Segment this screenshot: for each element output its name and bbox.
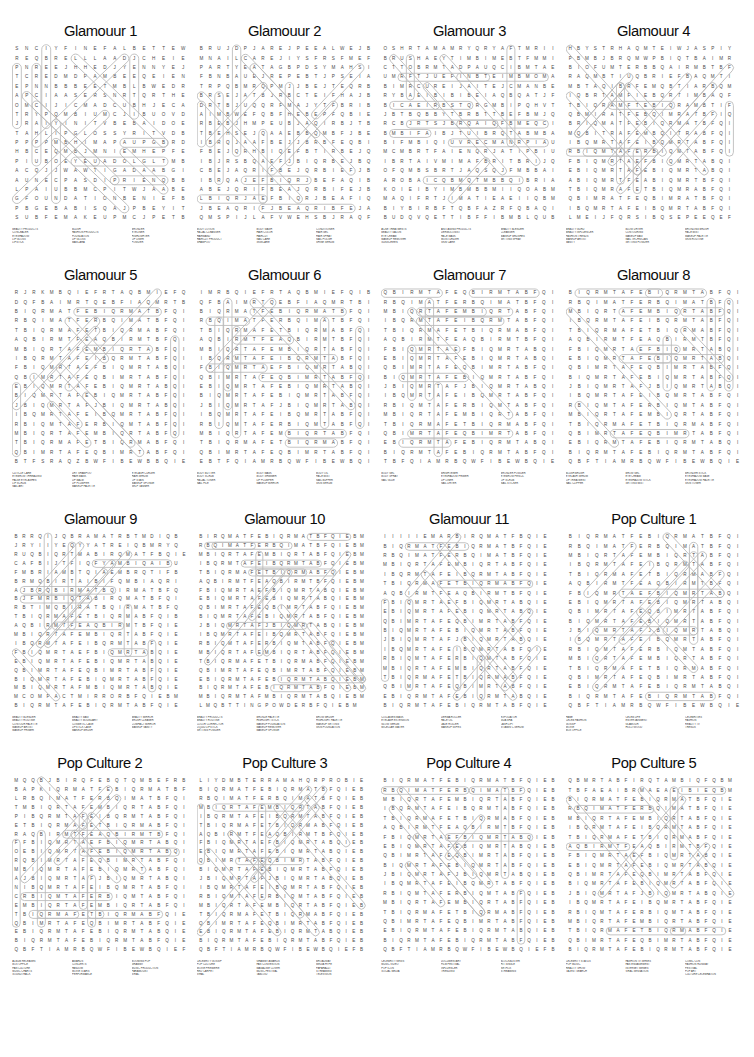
grid-letter: I (537, 928, 538, 933)
letter-grid[interactable]: IIIIIEMARBIRQMATFBQIEBIQRMATFEBIQRMATBFQ… (381, 532, 557, 710)
grid-letter: A (688, 938, 692, 943)
grid-letter: B (288, 356, 291, 361)
grid-letter: F (666, 703, 669, 708)
found-word-highlight (259, 373, 364, 381)
grid-letter: R (140, 840, 144, 845)
grid-letter: A (512, 835, 516, 840)
grid-letter: T (253, 365, 256, 370)
grid-letter: Q (358, 328, 362, 333)
grid-letter: F (728, 93, 731, 98)
grid-letter: K (84, 215, 88, 220)
grid-letter: Q (711, 215, 715, 220)
grid-letter: F (87, 650, 90, 655)
letter-grid[interactable]: BIRQMATFEBIQRMATBFQIEBMRBQIMATFERBQIMATB… (197, 532, 373, 710)
grid-letter: T (424, 647, 427, 652)
found-word-highlight (645, 692, 715, 700)
grid-letter: R (323, 56, 327, 61)
grid-letter: I (183, 903, 184, 908)
letter-grid[interactable]: BIQRMATFEBIQRMATBFQIRBQIMATFERBQIMATBFQI… (566, 532, 742, 710)
grid-letter: T (613, 309, 616, 314)
grid-letter: I (253, 187, 254, 192)
grid-letter: B (709, 553, 712, 558)
grid-letter: M (455, 797, 459, 802)
grid-letter: F (520, 666, 523, 671)
grid-letter: B (208, 431, 211, 436)
grid-letter: I (464, 393, 465, 398)
grid-letter: E (384, 440, 387, 445)
letter-grid[interactable]: HBYSTRHAQMTEIWJASPIYPBMBJBRQMWPBIQTBAIMR… (566, 44, 742, 222)
grid-letter: I (409, 591, 410, 596)
grid-letter: B (657, 684, 660, 689)
word-list-column: BODY BUTTERBODY SCRUBFACIAL TONERNAIL FI… (197, 472, 254, 485)
grid-letter: Q (174, 903, 178, 908)
grid-letter: Q (30, 703, 34, 708)
letter-grid[interactable]: BIQRMATFEBIQRMATBFQIEBRBQIMATFERBQIMATBF… (381, 776, 557, 954)
letter-grid[interactable]: IMRBQIEFRTAQBMIEFQIBQFBAIMRTQEBFIAQMRTBI… (197, 288, 373, 466)
grid-letter: F (384, 600, 387, 605)
grid-letter: M (305, 393, 309, 398)
puzzle-card: Pop Culture 5QBMRTABFIRQTAMBIQFQBMTBFAEA… (562, 754, 747, 998)
grid-letter: J (297, 84, 299, 89)
letter-grid[interactable]: MQQBJBIRQFEBQTQMBEFRBBAPKIQRMATFEBIQRMAT… (12, 776, 188, 954)
grid-letter: Q (479, 534, 483, 539)
grid-letter: I (306, 318, 307, 323)
grid-letter: Q (235, 187, 239, 192)
grid-letter: E (346, 685, 349, 690)
grid-letter: C (243, 56, 247, 61)
letter-grid[interactable]: LIYDMBTERRAMAHQRPROBIEBIQRMATFEBIQRMATBF… (197, 776, 373, 954)
grid-letter: B (107, 849, 110, 854)
grid-letter: L (15, 796, 18, 801)
grid-letter: B (206, 641, 209, 646)
grid-letter: J (143, 187, 145, 192)
grid-letter: J (358, 168, 360, 173)
grid-letter: J (49, 778, 51, 783)
letter-grid-svg: HBYSTRHAQMTEIWJASPIYPBMBJBRQMWPBIQTBAIMR… (566, 44, 742, 222)
grid-letter: I (333, 168, 334, 173)
grid-letter: I (465, 628, 466, 633)
letter-grid[interactable]: QBIRMTAFEQBIRMTABFQIRBQIMATFERBQIMATBFQI… (381, 288, 557, 466)
grid-letter: Q (417, 112, 421, 117)
grid-letter: F (627, 103, 630, 108)
grid-letter: E (455, 403, 458, 408)
grid-letter: B (353, 614, 356, 619)
grid-letter: A (217, 56, 221, 61)
grid-letter: F (718, 318, 721, 323)
letter-grid[interactable]: RJRKMBQIEFRTAQBMIEFQDQFBAIMRTQEBFIAQMRTB… (12, 288, 188, 466)
grid-letter: R (683, 609, 687, 614)
grid-letter: M (672, 825, 676, 830)
letter-grid[interactable]: BIQRMTAFEBIQRMTABFQIRBQIMATFERBQIMATBFQI… (566, 288, 742, 466)
grid-letter: I (473, 900, 474, 905)
grid-letter: N (143, 65, 146, 70)
grid-letter: M (498, 290, 502, 295)
letter-grid[interactable]: BRRQIJQBRAMATRBTMDIQBJRYIIYEQYYATREIQBMR… (12, 532, 188, 710)
grid-letter: Q (665, 393, 669, 398)
grid-letter: J (544, 93, 546, 98)
letter-grid[interactable]: SNCIYFINEFALBETTEWREQBRELLLAADJCHEIEPNRE… (12, 44, 188, 222)
grid-letter: Q (22, 623, 26, 628)
grid-letter: Q (489, 412, 493, 417)
grid-letter: A (535, 206, 539, 211)
grid-letter: B (159, 605, 162, 610)
grid-letter: Q (660, 121, 664, 126)
grid-letter: I (215, 805, 216, 810)
grid-letter: E (86, 431, 89, 436)
grid-letter: A (688, 825, 692, 830)
grid-letter: R (31, 534, 35, 539)
letter-grid[interactable]: QBMRTABFIRQTAMBIQFQBMTBFAEAIBRMAEAEIBIEQ… (566, 776, 742, 954)
grid-letter: I (666, 609, 667, 614)
grid-letter: M (498, 384, 502, 389)
grid-letter: F (151, 623, 154, 628)
grid-letter: M (451, 46, 455, 51)
grid-letter: T (507, 412, 510, 417)
letter-grid[interactable]: BRUJDPJAREJPEEALWEJBMNAILCAREJIYSFRSFMEF… (197, 44, 373, 222)
grid-letter: N (35, 178, 38, 183)
grid-letter: F (440, 863, 443, 868)
grid-letter: M (423, 675, 427, 680)
grid-letter: A (157, 840, 161, 845)
letter-grid[interactable]: OSHRTAMAMRYQRYAFTMRIIBRUSHAEYTIMBIMEBTFM… (381, 44, 557, 222)
grid-letter: R (401, 159, 405, 164)
grid-letter: Q (226, 440, 230, 445)
grid-letter: A (504, 562, 508, 567)
grid-letter: T (323, 431, 326, 436)
grid-letter: R (129, 393, 133, 398)
